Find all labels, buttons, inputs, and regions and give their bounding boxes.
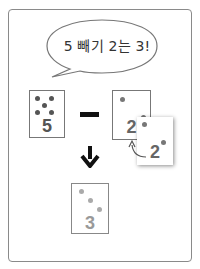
down-arrow-icon [80, 146, 100, 168]
speech-bubble-text: 5 빼기 2는 3! [52, 35, 162, 55]
dot [142, 122, 147, 127]
dot [88, 198, 93, 203]
dot [49, 110, 54, 115]
card-number: 3 [72, 213, 108, 234]
dot [35, 110, 40, 115]
card-three: 3 [71, 183, 109, 234]
card-number: 5 [30, 116, 64, 137]
minus-sign [80, 112, 99, 117]
dot [79, 189, 84, 194]
curved-arrow-icon [124, 136, 150, 160]
dot [120, 97, 125, 102]
dot [35, 96, 40, 101]
dot [97, 207, 102, 212]
card-five: 5 [29, 90, 65, 138]
dot [42, 103, 47, 108]
dot [49, 96, 54, 101]
